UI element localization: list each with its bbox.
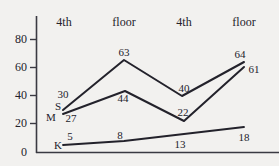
data-label-m-1: 27 bbox=[59, 113, 83, 124]
series-key-m: M bbox=[44, 112, 58, 123]
data-label-m-4: 61 bbox=[242, 64, 266, 75]
y-axis-label-20: 20 bbox=[1, 117, 27, 129]
series-line-m bbox=[63, 67, 244, 121]
data-label-k-2: 8 bbox=[108, 130, 132, 141]
y-axis-label-0: 0 bbox=[1, 146, 27, 158]
data-label-s-3: 40 bbox=[172, 83, 196, 94]
line-chart: 80 60 40 20 0 4th floor 4th floor S M K … bbox=[0, 0, 279, 166]
data-label-s-2: 63 bbox=[112, 47, 136, 58]
data-label-k-3: 13 bbox=[168, 139, 192, 150]
column-header-4: floor bbox=[221, 16, 267, 28]
series-line-s bbox=[63, 60, 244, 110]
column-header-3: 4th bbox=[161, 16, 207, 28]
data-label-s-1: 30 bbox=[51, 89, 75, 100]
y-axis-label-60: 60 bbox=[1, 61, 27, 73]
data-label-k-4: 18 bbox=[232, 132, 256, 143]
y-axis-label-80: 80 bbox=[1, 33, 27, 45]
data-label-m-2: 44 bbox=[111, 93, 135, 104]
data-label-s-4: 64 bbox=[228, 49, 252, 60]
column-header-2: floor bbox=[101, 16, 147, 28]
column-header-1: 4th bbox=[41, 16, 87, 28]
series-line-k bbox=[63, 127, 244, 145]
data-label-m-3: 22 bbox=[171, 107, 195, 118]
y-axis-label-40: 40 bbox=[1, 89, 27, 101]
data-label-k-1: 5 bbox=[58, 131, 82, 142]
